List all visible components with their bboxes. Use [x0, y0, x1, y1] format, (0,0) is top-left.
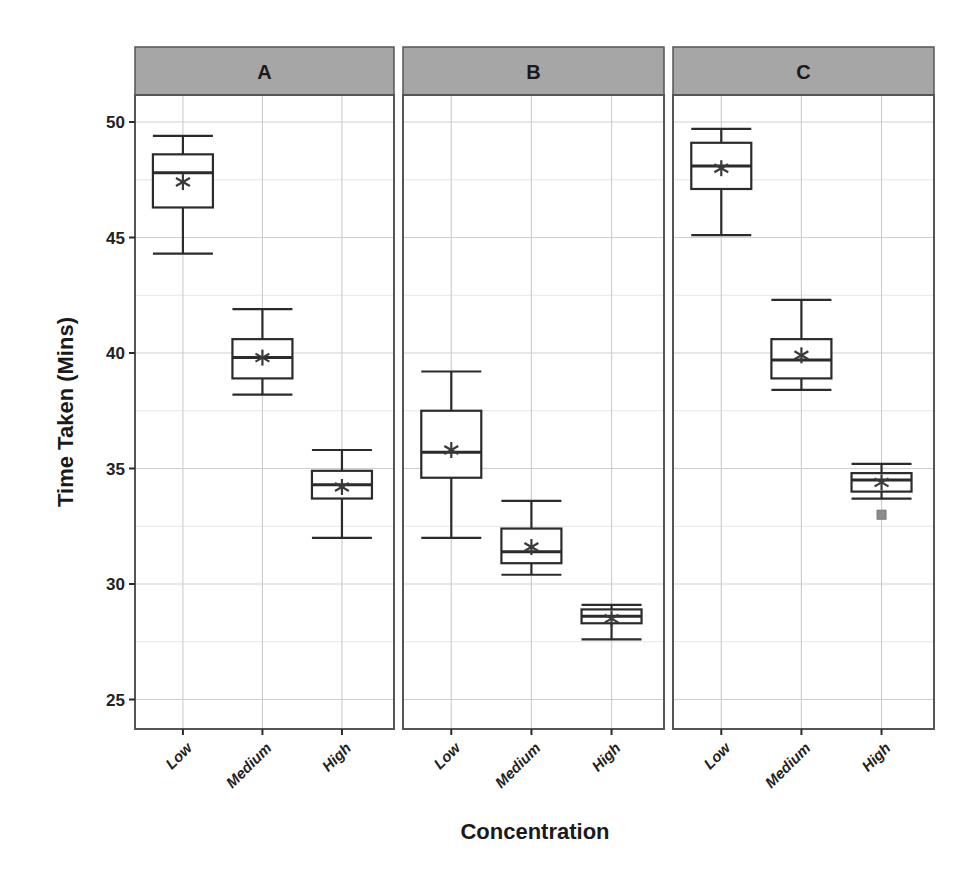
- x-tick-label: Medium: [222, 739, 274, 791]
- y-tick-label: 25: [106, 691, 125, 710]
- y-tick-label: 45: [106, 229, 125, 248]
- x-tick-label: High: [318, 739, 354, 775]
- y-axis-title: Time Taken (Mins): [53, 317, 78, 507]
- facet-strip-label: B: [526, 61, 540, 83]
- facet-panel-c: CLowMediumHigh: [673, 47, 934, 791]
- facet-strip-label: A: [257, 61, 271, 83]
- outlier-marker: [877, 510, 886, 519]
- x-tick-label: Medium: [761, 739, 813, 791]
- y-tick-label: 50: [106, 113, 125, 132]
- x-tick-label: High: [588, 739, 624, 775]
- x-tick-label: Low: [162, 738, 196, 772]
- y-axis: 253035404550: [106, 113, 135, 710]
- y-tick-label: 40: [106, 344, 125, 363]
- facet-panel-b: BLowMediumHigh: [403, 47, 664, 791]
- x-tick-label: Medium: [491, 739, 543, 791]
- y-tick-label: 35: [106, 460, 125, 479]
- faceted-boxplot-chart: ALowMediumHighBLowMediumHighCLowMediumHi…: [0, 0, 972, 880]
- facet-panels: ALowMediumHighBLowMediumHighCLowMediumHi…: [135, 47, 934, 791]
- panel-background: [673, 95, 934, 729]
- x-tick-label: Low: [700, 738, 734, 772]
- facet-strip-label: C: [796, 61, 810, 83]
- facet-panel-a: ALowMediumHigh: [135, 47, 394, 791]
- y-tick-label: 30: [106, 575, 125, 594]
- x-tick-label: Low: [430, 738, 464, 772]
- x-axis-title: Concentration: [460, 819, 609, 844]
- x-tick-label: High: [858, 739, 894, 775]
